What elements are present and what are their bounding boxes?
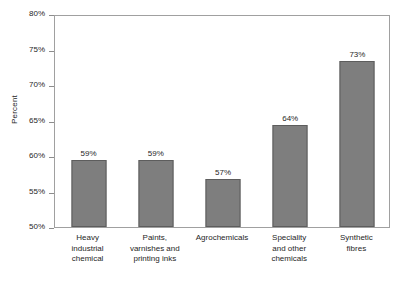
y-axis-tick-label: 55%	[29, 187, 45, 196]
x-axis-category-line: chemicals	[249, 254, 329, 265]
bar-value-label: 64%	[282, 114, 298, 123]
y-axis-tick-label: 60%	[29, 151, 45, 160]
x-axis-category-label: Syntheticfibres	[316, 233, 396, 254]
y-axis-tick-label: 50%	[29, 222, 45, 231]
bar-group[interactable]: 73%	[324, 14, 391, 227]
bar[interactable]	[138, 160, 173, 227]
bar-value-label: 59%	[81, 149, 97, 158]
bar-value-label: 57%	[215, 168, 231, 177]
y-axis-title: Percent	[10, 75, 19, 145]
x-axis-category-line: fibres	[316, 244, 396, 255]
bar-group[interactable]: 57%	[189, 14, 256, 227]
y-axis-tick-label: 65%	[29, 116, 45, 125]
bar[interactable]	[205, 179, 240, 227]
bar-group[interactable]: 59%	[122, 14, 189, 227]
bar-value-label: 59%	[148, 149, 164, 158]
y-axis-tick-label: 75%	[29, 45, 45, 54]
y-axis-tick-label: 70%	[29, 80, 45, 89]
bar-group[interactable]: 59%	[55, 14, 122, 227]
x-axis-category-line: printing inks	[115, 254, 195, 265]
bar-group[interactable]: 64%	[257, 14, 324, 227]
bar[interactable]	[71, 160, 106, 227]
plot-area: 59%59%57%64%73%	[54, 15, 390, 228]
y-axis-tick-mark	[49, 228, 54, 229]
bar-value-label: 73%	[349, 50, 365, 59]
x-axis-category-line: varnishes and	[115, 244, 195, 255]
x-axis-category-line: Synthetic	[316, 233, 396, 244]
bar[interactable]	[340, 61, 375, 227]
bar-chart: Percent 80%75%70%65%60%55%50% 59%59%57%6…	[0, 0, 403, 285]
bar[interactable]	[273, 125, 308, 227]
y-axis-tick-label: 80%	[29, 9, 45, 18]
